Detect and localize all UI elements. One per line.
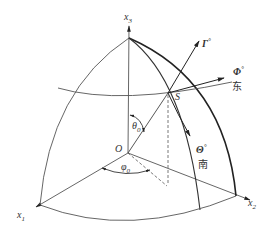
x1-label: x1 bbox=[17, 210, 25, 223]
gamma-vector-label: Γ° bbox=[202, 38, 211, 49]
x3-axis bbox=[128, 26, 129, 153]
phi-vector-label: Φ° bbox=[233, 66, 244, 77]
phi0-label-sub: 0 bbox=[127, 167, 131, 175]
origin-label: O bbox=[115, 144, 122, 154]
x2-label: x2 bbox=[248, 198, 256, 211]
gamma-label-sup: ° bbox=[208, 37, 211, 45]
x1-label-sub: 1 bbox=[21, 215, 25, 223]
theta-label-sup: ° bbox=[204, 143, 207, 151]
theta-label-text: Θ bbox=[196, 144, 204, 155]
phi0-label: φ0 bbox=[121, 162, 130, 175]
theta0-label-sub: 0 bbox=[137, 126, 141, 134]
projection-horizontal bbox=[128, 153, 167, 186]
meridian-x1 bbox=[40, 38, 129, 205]
phi-label-text: Φ bbox=[233, 66, 241, 77]
x3-label: x3 bbox=[124, 12, 132, 25]
theta0-label: θ0 bbox=[132, 121, 140, 134]
x1-axis bbox=[36, 153, 128, 207]
equator-arc bbox=[40, 196, 236, 221]
phi-label-sup: ° bbox=[241, 65, 244, 73]
point-s-label: S bbox=[175, 92, 180, 102]
spherical-octant-diagram bbox=[0, 0, 272, 236]
latitude-arc bbox=[58, 82, 232, 96]
meridian-x2 bbox=[129, 38, 236, 196]
x3-label-sub: 3 bbox=[128, 17, 132, 25]
theta-vector-label: Θ° bbox=[196, 144, 206, 155]
x2-label-sub: 2 bbox=[252, 203, 256, 211]
south-label: 南 bbox=[198, 160, 208, 170]
x2-axis bbox=[128, 153, 250, 200]
east-label: 东 bbox=[232, 82, 242, 92]
